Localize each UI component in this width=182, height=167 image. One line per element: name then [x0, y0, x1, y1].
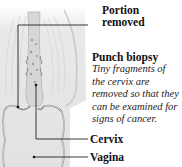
portion-removed-line1: Portion — [102, 4, 145, 16]
portion-removed-line2: removed — [102, 16, 145, 28]
desc-line: can be examined for — [92, 101, 179, 114]
desc-line: removed so that they — [92, 88, 179, 101]
uterus-body — [0, 5, 86, 167]
punch-biopsy-title: Punch biopsy — [92, 51, 158, 63]
desc-line: Tiny fragments of — [92, 63, 179, 76]
desc-line: the cervix are — [92, 76, 179, 89]
desc-line: signs of cancer. — [92, 113, 179, 126]
portion-removed-label: Portion removed — [102, 4, 145, 28]
cervix-label: Cervix — [90, 133, 123, 145]
punch-biopsy-description: Tiny fragments of the cervix are removed… — [92, 63, 179, 126]
vagina-label: Vagina — [90, 151, 124, 163]
